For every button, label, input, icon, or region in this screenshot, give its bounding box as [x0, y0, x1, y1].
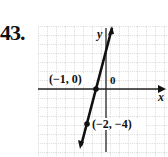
point2-label: (−2, −4) [92, 117, 132, 131]
grid [38, 26, 168, 157]
origin-label: 0 [110, 74, 116, 86]
point1-label: (−1, 0) [49, 72, 82, 86]
point-neg2-neg4 [84, 121, 90, 127]
point-neg1-0 [93, 86, 99, 92]
x-axis-label: x [157, 90, 164, 104]
y-axis-label: y [95, 27, 103, 41]
coordinate-graph: (−1, 0) (−2, −4) 0 y x [0, 0, 168, 157]
